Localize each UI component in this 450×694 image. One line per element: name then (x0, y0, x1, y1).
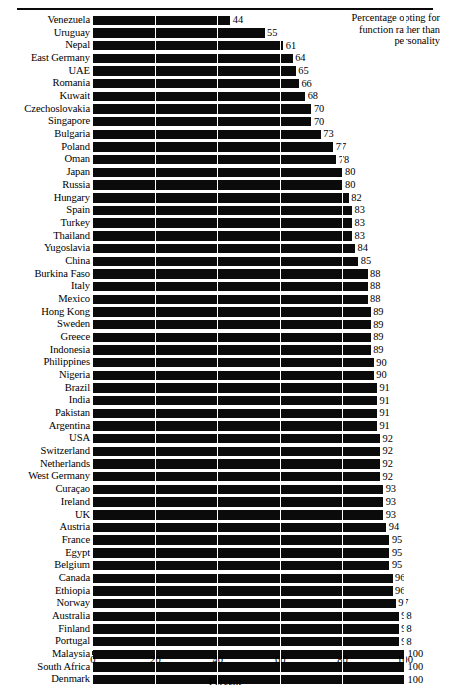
bar-row: France95 (0, 534, 450, 547)
bar-row: Mexico88 (0, 293, 450, 306)
category-label: Poland (0, 141, 90, 154)
bar (93, 155, 336, 164)
bar (93, 421, 377, 430)
bar (93, 28, 265, 37)
bar-value-label: 68 (305, 90, 318, 103)
bar (93, 269, 368, 278)
bar-value-label: 95 (389, 534, 402, 547)
bar-row: Nigeria90 (0, 369, 450, 382)
bar-row: Russia80 (0, 179, 450, 192)
bar-value-label: 89 (371, 344, 384, 357)
bar-row: India91 (0, 394, 450, 407)
category-label: Indonesia (0, 344, 90, 357)
gridline-overlay-20 (155, 14, 156, 686)
category-label: Nepal (0, 39, 90, 52)
category-label: Czechoslovakia (0, 103, 90, 116)
bar-value-label: 90 (374, 369, 387, 382)
category-label: Brazil (0, 382, 90, 395)
bar-row: Philippines90 (0, 356, 450, 369)
bar (93, 16, 230, 25)
gridline-overlay-60 (280, 14, 281, 686)
category-label: Philippines (0, 356, 90, 369)
category-label: Yugoslavia (0, 242, 90, 255)
bar (93, 574, 393, 583)
category-label: Oman (0, 153, 90, 166)
category-label: Greece (0, 331, 90, 344)
bar (93, 561, 389, 570)
bar-row: UAE65 (0, 65, 450, 78)
bar-row: Netherlands92 (0, 458, 450, 471)
x-tick-label: 0 (73, 654, 113, 665)
bar-value-label: 89 (371, 306, 384, 319)
category-label: Nigeria (0, 369, 90, 382)
bar-value-label: 88 (368, 293, 381, 306)
bar (93, 295, 368, 304)
category-label: Ethiopia (0, 585, 90, 598)
bar-value-label: 97 (396, 597, 409, 610)
bar-value-label: 73 (321, 128, 334, 141)
bar (93, 459, 380, 468)
bar-value-label: 95 (389, 547, 402, 560)
bar-value-label: 80 (343, 166, 356, 179)
x-axis: Percent 020406080100 (0, 651, 450, 694)
bar-value-label: 93 (383, 483, 396, 496)
bar-value-label: 77 (333, 141, 346, 154)
bar (93, 307, 371, 316)
bar-value-label: 94 (386, 521, 399, 534)
bar-value-label: 91 (377, 420, 390, 433)
bar (93, 257, 358, 266)
bar (93, 130, 321, 139)
bar-value-label: 80 (343, 179, 356, 192)
bar-value-label: 64 (293, 52, 306, 65)
bar-value-label: 95 (389, 559, 402, 572)
bar-row: Romania66 (0, 77, 450, 90)
category-label: Kuwait (0, 90, 90, 103)
bar-row: Uruguay55 (0, 27, 450, 40)
category-label: Singapore (0, 115, 90, 128)
bar-row: Ireland93 (0, 496, 450, 509)
category-label: Switzerland (0, 445, 90, 458)
bar (93, 409, 377, 418)
bar (93, 66, 296, 75)
bar-row: Spain83 (0, 204, 450, 217)
bar (93, 447, 380, 456)
bar-value-label: 88 (368, 268, 381, 281)
bar-row: Venezuela44 (0, 14, 450, 27)
bar (93, 586, 393, 595)
bar-row: USA92 (0, 432, 450, 445)
bar (93, 117, 311, 126)
category-label: Austria (0, 521, 90, 534)
category-label: Argentina (0, 420, 90, 433)
bar-row: Hong Kong89 (0, 306, 450, 319)
bar-row: Argentina91 (0, 420, 450, 433)
category-label: Hungary (0, 192, 90, 205)
bar-row: Greece89 (0, 331, 450, 344)
bar-value-label: 84 (355, 242, 368, 255)
bar (93, 206, 352, 215)
bar-value-label: 89 (371, 331, 384, 344)
bar-row: Poland77 (0, 141, 450, 154)
bar (93, 41, 283, 50)
bar-row: Bulgaria73 (0, 128, 450, 141)
bar-value-label: 92 (380, 445, 393, 458)
category-label: East Germany (0, 52, 90, 65)
bar (93, 92, 305, 101)
bar-value-label: 91 (377, 382, 390, 395)
bar-row: Canada96 (0, 572, 450, 585)
bar-row: West Germany92 (0, 470, 450, 483)
category-label: Spain (0, 204, 90, 217)
bar (93, 142, 333, 151)
top-rule-divider (17, 8, 433, 10)
bar-row: Singapore70 (0, 115, 450, 128)
bar-row: Indonesia89 (0, 344, 450, 357)
category-label: Turkey (0, 217, 90, 230)
bar-value-label: 92 (380, 471, 393, 484)
bar-row: Ethiopia96 (0, 585, 450, 598)
bar-row: Finland98 (0, 623, 450, 636)
bar-row: Belgium95 (0, 559, 450, 572)
plot-area: Venezuela44Uruguay55Nepal61East Germany6… (0, 14, 450, 686)
bar-row: Thailand83 (0, 230, 450, 243)
category-label: Italy (0, 280, 90, 293)
bar (93, 396, 377, 405)
bar (93, 548, 389, 557)
